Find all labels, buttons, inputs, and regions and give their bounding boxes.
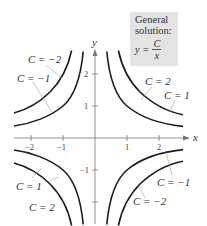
- general-solution-box: General solution: y = C x: [130, 12, 178, 66]
- curve-label: C = 2: [29, 201, 55, 213]
- x-tick-label: −2: [25, 142, 34, 152]
- curve-label: C = −2: [133, 195, 167, 207]
- x-tick-label: −1: [57, 142, 66, 152]
- solution-equation: y = C x: [135, 38, 178, 61]
- x-tick-label: 2: [157, 142, 161, 152]
- fraction-numerator: C: [152, 38, 161, 50]
- curve-label: C = −1: [17, 72, 50, 84]
- x-axis-arrow-icon: [183, 136, 190, 141]
- curve-c2-q3: [14, 163, 72, 226]
- y-axis-arrow-icon: [93, 49, 98, 56]
- y-axis-label: y: [91, 36, 97, 48]
- fraction: C x: [152, 38, 161, 61]
- curve-label: C = 1: [16, 180, 42, 192]
- y-tick-label: 1: [84, 101, 88, 111]
- y-tick-label: 2: [84, 69, 88, 79]
- curve-label: C = 1: [164, 89, 190, 101]
- equation-lhs: y =: [135, 44, 149, 55]
- curve-cm2-q4: [118, 161, 183, 225]
- curve-label: C = 2: [145, 75, 171, 87]
- box-line-1: General: [135, 14, 178, 25]
- x-axis-label: x: [192, 131, 198, 143]
- fraction-denominator: x: [155, 50, 160, 61]
- y-tick-label: −1: [80, 165, 89, 175]
- curve-label: C = −2: [28, 53, 62, 65]
- x-tick-label: 1: [125, 142, 129, 152]
- box-line-2: solution:: [135, 25, 178, 36]
- curve-label: C = −1: [157, 176, 190, 188]
